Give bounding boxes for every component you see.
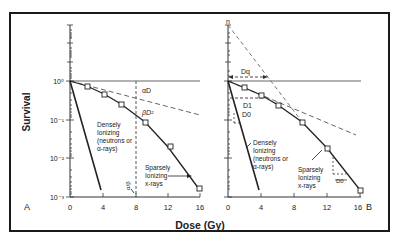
svg-text:α-rays): α-rays)	[253, 163, 273, 171]
svg-text:Ionizing: Ionizing	[97, 129, 120, 137]
annot-n: n	[226, 18, 230, 25]
x-tick-b-4: 4	[259, 203, 263, 212]
svg-text:Densely: Densely	[253, 139, 277, 147]
x-tick-a-8: 8	[134, 203, 138, 212]
x-tick-a-0: 0	[68, 203, 72, 212]
svg-text:Ionizing: Ionizing	[298, 174, 321, 182]
annot-alpha-over-beta: α/β	[125, 181, 131, 190]
x-tick-b-0: 0	[226, 203, 230, 212]
y-tick-1e0: 10⁰	[53, 78, 64, 85]
svg-text:Densely: Densely	[97, 121, 121, 129]
svg-text:Sparsely: Sparsely	[298, 166, 324, 174]
svg-text:(neutrons or: (neutrons or	[97, 137, 133, 145]
svg-text:Ionizing: Ionizing	[253, 147, 276, 155]
y-tick-1e-3: 10⁻³	[50, 194, 65, 201]
y-axis-label: Survival	[21, 92, 32, 131]
annot-betaD2: βD²	[141, 109, 154, 117]
svg-text:x-rays: x-rays	[298, 182, 316, 190]
panel-b-dense-label: Densely Ionizing (neutrons or α-rays)	[253, 139, 289, 171]
x-tick-b-8: 8	[292, 203, 296, 212]
panel-b-sparse-label: Sparsely Ionizing x-rays	[298, 166, 324, 190]
svg-text:Sparsely: Sparsely	[145, 164, 171, 172]
svg-text:x-rays: x-rays	[145, 180, 163, 188]
panel-a-sparse-label: Sparsely Ionizing x-rays	[145, 164, 171, 188]
x-tick-a-16: 16	[196, 203, 204, 212]
y-tick-1e-2: 10⁻²	[50, 155, 65, 162]
annot-alphaD: αD	[142, 87, 151, 94]
x-axis-label: Dose (Gy)	[175, 219, 225, 231]
annot-D1: D1	[243, 102, 252, 109]
annot-D0-dense: D0	[242, 111, 251, 118]
x-tick-a-4: 4	[101, 203, 105, 212]
x-tick-a-12: 12	[164, 203, 172, 212]
panel-a-dense-label: Densely Ionizing (neutrons or α-rays)	[97, 121, 133, 153]
y-tick-1e-1: 10⁻¹	[50, 117, 65, 124]
annot-D0-sparse: D0	[336, 178, 344, 184]
svg-text:α-rays): α-rays)	[97, 145, 117, 153]
annot-Dq: Dq	[241, 68, 250, 76]
panel-b-label: B	[366, 202, 372, 212]
svg-text:(neutrons or: (neutrons or	[253, 155, 289, 163]
x-tick-b-12: 12	[323, 203, 331, 212]
panel-a-label: A	[24, 202, 30, 212]
panel-a	[66, 25, 202, 197]
svg-text:Ionizing: Ionizing	[145, 172, 168, 180]
survival-curves-figure: Survival Dose (Gy) 10⁰ 10⁻¹ 10⁻² 10⁻³ A …	[0, 0, 400, 248]
x-tick-b-16: 16	[354, 203, 362, 212]
